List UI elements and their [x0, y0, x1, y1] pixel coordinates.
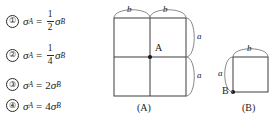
option-1-numerator: 1: [47, 10, 54, 20]
option-3-rhs-subscript: B: [56, 80, 61, 89]
figure-a-brace-a-bottom: [186, 57, 194, 96]
figure-a-brace-a-top: [186, 18, 194, 57]
figure-b-caption: (B): [242, 102, 255, 113]
option-2-fraction: 1 4: [47, 44, 54, 66]
figure-b-rect: [233, 57, 268, 92]
option-number-3: ③: [6, 78, 19, 91]
figure-a-label-a-top: a: [197, 31, 202, 41]
option-1-denominator: 2: [47, 23, 54, 33]
option-2-denominator: 4: [47, 57, 54, 67]
option-3-relation: =: [36, 79, 42, 91]
question-figure-panel: ① σA = 1 2 σB ② σA = 1 4 σB ③ σA: [0, 0, 275, 124]
option-number-4: ④: [6, 99, 19, 112]
option-number-2: ②: [6, 49, 19, 62]
figure-b-grid: [231, 57, 268, 94]
figure-b-label-a: a: [218, 68, 223, 78]
option-3-lhs-subscript: A: [28, 80, 33, 89]
option-4-rhs-subscript: B: [56, 101, 61, 110]
option-2-numerator: 1: [47, 44, 54, 54]
option-number-1: ①: [6, 15, 19, 28]
answer-option-4[interactable]: ④ σA = 4σB: [6, 99, 61, 112]
option-2-lhs-subscript: A: [28, 51, 33, 60]
answer-option-3[interactable]: ③ σA = 2σB: [6, 78, 61, 91]
option-1-relation: =: [36, 15, 42, 27]
figure-a-label-b-left: b: [127, 4, 132, 14]
figure-a-point-label: A: [155, 42, 162, 53]
figures-area: b b a a A (A) b a B (B): [100, 0, 275, 124]
option-4-relation: =: [36, 100, 42, 112]
option-2-relation: =: [36, 49, 42, 61]
figure-a-top-braces: [114, 10, 186, 18]
answer-option-1[interactable]: ① σA = 1 2 σB: [6, 10, 65, 32]
option-2-rhs-subscript: B: [60, 51, 65, 60]
answer-option-2[interactable]: ② σA = 1 4 σB: [6, 44, 65, 66]
figure-b-point-label: B: [222, 85, 229, 96]
figure-a-point-marker: [148, 55, 152, 59]
figure-a-brace-b-right: [150, 10, 186, 18]
figure-a-caption: (A): [137, 102, 151, 113]
answer-options-list: ① σA = 1 2 σB ② σA = 1 4 σB ③ σA: [0, 0, 100, 124]
option-1-rhs-subscript: B: [60, 17, 65, 26]
option-4-lhs-subscript: A: [28, 101, 33, 110]
option-1-fraction: 1 2: [47, 10, 54, 32]
figure-a-label-a-bottom: a: [197, 70, 202, 80]
figure-a-label-b-right: b: [163, 4, 168, 14]
figure-b-label-b: b: [247, 43, 252, 53]
option-1-lhs-subscript: A: [28, 17, 33, 26]
figure-a-right-braces: [186, 18, 194, 96]
figure-a-grid: [114, 18, 186, 96]
figure-a-brace-b-left: [114, 10, 150, 18]
